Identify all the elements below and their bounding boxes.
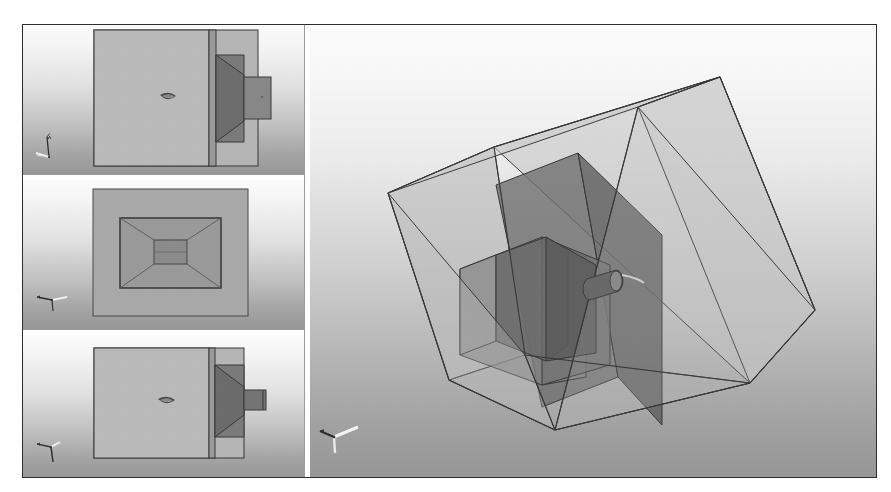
front-view-scene [23,180,304,329]
throat-center-point [261,96,263,98]
throat-extension-rect [244,77,271,119]
viewport-front-view[interactable] [23,180,304,329]
cad-application-window [0,0,891,492]
probe-cylinder-cap [610,271,622,291]
viewport-iso-view[interactable] [310,25,876,477]
inlet-plenum-rect [94,30,209,166]
top-view-scene [23,25,304,174]
iso-view-scene [310,25,876,477]
isometric-column [310,25,876,477]
side-view-scene [23,335,304,477]
viewport-frame [22,24,877,478]
viewport-side-view[interactable] [23,335,304,477]
orthographic-column [23,25,304,477]
wall-strip [209,348,215,458]
inlet-plenum-rect [94,348,209,458]
viewport-top-view[interactable] [23,25,304,174]
wall-strip [209,30,216,166]
